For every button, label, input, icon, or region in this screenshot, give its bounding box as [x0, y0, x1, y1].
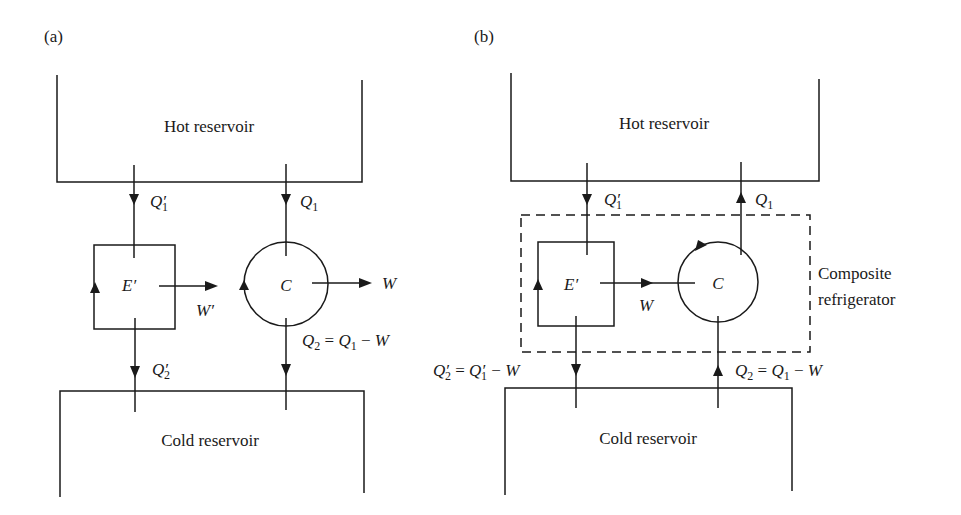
w-label-a: W — [382, 274, 398, 293]
cycle-arrow-icon-engine-b — [533, 279, 543, 290]
q1-label-a: Q1 — [300, 192, 318, 214]
q1-arrow-icon-a — [281, 194, 291, 205]
carnot-label-b: C — [712, 274, 724, 293]
q2-prime-label-a: Q′2 — [152, 360, 170, 382]
engine-label-a: E′ — [121, 276, 136, 295]
q2-label-a: Q2 = Q1 − W — [302, 331, 391, 353]
engine-label-b: E′ — [563, 275, 578, 294]
w-arrow-icon-b — [641, 278, 653, 288]
q1-label-b: Q1 — [755, 190, 773, 212]
q2-arrow-icon-a — [281, 364, 291, 376]
q1-prime-arrow-icon-a — [129, 194, 139, 205]
q2-label-b: Q2 = Q1 − W — [735, 361, 824, 383]
w-label-b: W — [639, 296, 655, 315]
panel-a: (a) Hot reservoir Q′1 Q1 E′ W′ Q′2 C — [44, 27, 398, 497]
hot-reservoir-label-b: Hot reservoir — [619, 114, 710, 133]
q1-prime-label-a: Q′1 — [150, 192, 168, 214]
panel-label-a: (a) — [44, 27, 63, 46]
q2-prime-arrow-icon-a — [130, 366, 140, 378]
cycle-arrow-icon-carnot-a — [239, 280, 249, 290]
composite-label-line1: Composite — [818, 264, 892, 283]
cold-reservoir-label-b: Cold reservoir — [599, 429, 697, 448]
cold-reservoir-label-a: Cold reservoir — [161, 431, 259, 450]
w-prime-label-a: W′ — [196, 301, 214, 320]
composite-label-line2: refrigerator — [818, 290, 896, 309]
q1-arrow-icon-b — [736, 192, 746, 203]
w-arrow-icon-a — [359, 278, 372, 288]
w-prime-arrow-icon-a — [205, 281, 218, 291]
hot-reservoir-label-a: Hot reservoir — [164, 117, 255, 136]
cycle-arrow-icon-carnot-b — [695, 240, 707, 251]
panel-b: (b) Hot reservoir Q′1 Q1 Composite refri… — [433, 27, 896, 495]
q2-arrow-icon-b — [713, 365, 723, 376]
panel-label-b: (b) — [474, 27, 494, 46]
q1-prime-label-b: Q′1 — [604, 190, 622, 212]
cycle-arrow-icon-engine-a — [90, 282, 100, 293]
q2-prime-label-b: Q′2 = Q′1 − W — [433, 361, 521, 383]
heat-engine-diagram: (a) Hot reservoir Q′1 Q1 E′ W′ Q′2 C — [0, 0, 961, 515]
carnot-label-a: C — [280, 276, 292, 295]
q1-prime-arrow-icon-b — [582, 194, 592, 205]
q2-prime-arrow-icon-b — [571, 364, 581, 376]
